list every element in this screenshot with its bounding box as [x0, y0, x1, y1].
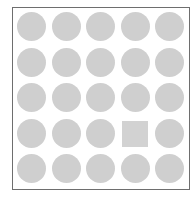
- circle-shape-r3-c2[interactable]: [52, 83, 81, 112]
- circle-shape-r3-c4[interactable]: [121, 83, 150, 112]
- circle-shape-r1-c4[interactable]: [121, 12, 150, 41]
- circle-shape-r5-c5[interactable]: [155, 154, 184, 183]
- circle-shape-r4-c3[interactable]: [86, 119, 115, 148]
- circle-shape-r5-c2[interactable]: [52, 154, 81, 183]
- circle-shape-r4-c1[interactable]: [17, 119, 46, 148]
- circle-shape-r1-c1[interactable]: [17, 12, 46, 41]
- circle-shape-r2-c5[interactable]: [155, 48, 184, 77]
- circle-shape-r5-c3[interactable]: [86, 154, 115, 183]
- square-shape-r4-c4[interactable]: [122, 121, 148, 147]
- circle-shape-r2-c3[interactable]: [86, 48, 115, 77]
- shape-grid: [17, 12, 184, 184]
- circle-shape-r3-c5[interactable]: [155, 83, 184, 112]
- circle-shape-r5-c1[interactable]: [17, 154, 46, 183]
- circle-shape-r1-c5[interactable]: [155, 12, 184, 41]
- circle-shape-r5-c4[interactable]: [121, 154, 150, 183]
- circle-shape-r2-c2[interactable]: [52, 48, 81, 77]
- puzzle-frame: [12, 7, 190, 190]
- circle-shape-r3-c1[interactable]: [17, 83, 46, 112]
- circle-shape-r1-c2[interactable]: [52, 12, 81, 41]
- circle-shape-r4-c5[interactable]: [155, 119, 184, 148]
- circle-shape-r4-c2[interactable]: [52, 119, 81, 148]
- circle-shape-r1-c3[interactable]: [86, 12, 115, 41]
- circle-shape-r2-c1[interactable]: [17, 48, 46, 77]
- circle-shape-r3-c3[interactable]: [86, 83, 115, 112]
- circle-shape-r2-c4[interactable]: [121, 48, 150, 77]
